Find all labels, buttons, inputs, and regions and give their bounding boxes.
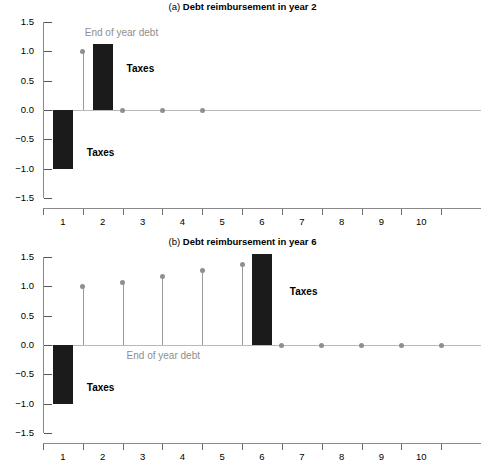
y-tick-mark <box>44 22 52 23</box>
y-tick-label: 1.0 <box>0 46 34 56</box>
x-tick-label: 4 <box>171 452 193 462</box>
panel-a: (a) Debt reimbursement in year 2 1.51.00… <box>0 0 485 234</box>
stem-line <box>83 286 84 345</box>
x-tick-mark <box>441 209 442 215</box>
x-tick-label: 1 <box>52 217 74 227</box>
stem-marker <box>279 343 284 348</box>
y-tick-label: −1.5 <box>0 193 34 203</box>
bar-mark <box>93 44 113 110</box>
annotation-taxes: Taxes <box>290 286 318 297</box>
y-tick-mark <box>44 286 52 287</box>
x-tick-mark <box>242 209 243 215</box>
stem-line <box>123 282 124 345</box>
y-tick-label: 0.0 <box>0 105 34 115</box>
y-tick-mark <box>44 316 52 317</box>
x-tick-mark <box>242 444 243 450</box>
x-tick-mark <box>123 444 124 450</box>
y-tick-label: 1.5 <box>0 252 34 262</box>
panel-a-title-index: (a) <box>169 1 181 12</box>
panel-a-x-axis <box>43 208 481 209</box>
stem-marker <box>120 280 125 285</box>
annotation-taxes: Taxes <box>87 382 115 393</box>
y-tick-mark <box>44 257 52 258</box>
y-tick-label: −1.0 <box>0 164 34 174</box>
stem-marker <box>200 268 205 273</box>
bar-mark <box>53 345 73 404</box>
x-tick-label: 4 <box>171 217 193 227</box>
panel-b-title-index: (b) <box>169 236 181 247</box>
y-tick-label: −1.5 <box>0 428 34 438</box>
y-tick-mark <box>44 433 52 434</box>
figure-two-panel-debt-reimbursement: (a) Debt reimbursement in year 2 1.51.00… <box>0 0 485 469</box>
x-tick-mark <box>202 444 203 450</box>
y-tick-mark <box>44 81 52 82</box>
x-tick-mark <box>162 209 163 215</box>
y-tick-mark <box>44 169 52 170</box>
x-tick-label: 3 <box>132 452 154 462</box>
y-tick-mark <box>44 374 52 375</box>
panel-b-zero-line <box>43 345 481 346</box>
y-tick-label: 0.5 <box>0 76 34 86</box>
panel-b-x-axis <box>43 443 481 444</box>
x-tick-label: 1 <box>52 452 74 462</box>
x-tick-mark <box>83 444 84 450</box>
y-tick-label: −0.5 <box>0 369 34 379</box>
y-tick-mark <box>44 345 52 346</box>
annotation-end-of-year-debt: End of year debt <box>85 27 158 38</box>
x-tick-mark <box>282 209 283 215</box>
x-tick-mark <box>83 209 84 215</box>
y-tick-mark <box>44 139 52 140</box>
x-tick-mark <box>162 444 163 450</box>
stem-marker <box>160 108 165 113</box>
y-tick-label: −0.5 <box>0 134 34 144</box>
stem-marker <box>80 49 85 54</box>
x-tick-mark <box>282 444 283 450</box>
y-tick-mark <box>44 404 52 405</box>
stem-marker <box>120 108 125 113</box>
stem-line <box>202 270 203 345</box>
annotation-taxes: Taxes <box>87 147 115 158</box>
panel-b-title: (b) Debt reimbursement in year 6 <box>0 236 485 248</box>
y-tick-label: −1.0 <box>0 399 34 409</box>
x-tick-mark <box>322 444 323 450</box>
annotation-taxes: Taxes <box>127 63 155 74</box>
bar-mark <box>53 110 73 169</box>
y-tick-label: 1.5 <box>0 17 34 27</box>
panel-b: (b) Debt reimbursement in year 6 1.51.00… <box>0 235 485 469</box>
x-tick-label: 6 <box>251 452 273 462</box>
x-tick-label: 10 <box>410 217 432 227</box>
x-tick-label: 3 <box>132 217 154 227</box>
stem-marker <box>319 343 324 348</box>
x-tick-label: 7 <box>291 452 313 462</box>
x-tick-mark <box>401 209 402 215</box>
stem-line <box>83 51 84 110</box>
annotation-end-of-year-debt: End of year debt <box>127 350 200 361</box>
y-tick-label: 0.5 <box>0 311 34 321</box>
x-tick-mark <box>202 209 203 215</box>
bar-mark <box>252 254 272 345</box>
x-tick-label: 6 <box>251 217 273 227</box>
x-tick-mark <box>43 444 44 450</box>
stem-marker <box>439 343 444 348</box>
stem-marker <box>399 343 404 348</box>
y-tick-mark <box>44 198 52 199</box>
stem-marker <box>240 262 245 267</box>
x-tick-mark <box>43 209 44 215</box>
y-tick-mark <box>44 51 52 52</box>
x-tick-label: 2 <box>92 217 114 227</box>
panel-a-plot-area: 1.51.00.50.0−0.5−1.0−1.5 End of year deb… <box>43 22 481 198</box>
x-tick-mark <box>123 209 124 215</box>
x-tick-mark <box>441 444 442 450</box>
x-tick-label: 9 <box>370 217 392 227</box>
y-tick-mark <box>44 110 52 111</box>
panel-a-zero-line <box>43 110 481 111</box>
stem-marker <box>200 108 205 113</box>
y-tick-label: 1.0 <box>0 281 34 291</box>
x-tick-mark <box>362 209 363 215</box>
stem-line <box>162 276 163 345</box>
x-tick-label: 9 <box>370 452 392 462</box>
panel-a-title-text: Debt reimbursement in year 2 <box>183 1 317 12</box>
x-tick-label: 5 <box>211 452 233 462</box>
x-tick-label: 10 <box>410 452 432 462</box>
x-tick-mark <box>322 209 323 215</box>
